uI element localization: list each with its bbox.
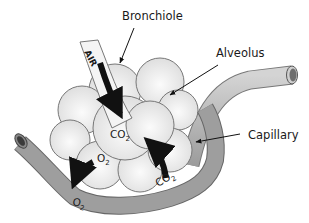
bronchiole-label: Bronchiole bbox=[122, 9, 183, 23]
alveolus-label: Alveolus bbox=[216, 46, 264, 60]
gas-exchange-diagram: AIR CO2 O2 O2 CO2 Bronchiole Alveolus Ca… bbox=[0, 0, 309, 223]
bronchiole-pointer bbox=[120, 28, 134, 63]
capillary-label: Capillary bbox=[248, 128, 299, 142]
alveolus-cluster bbox=[50, 58, 198, 192]
